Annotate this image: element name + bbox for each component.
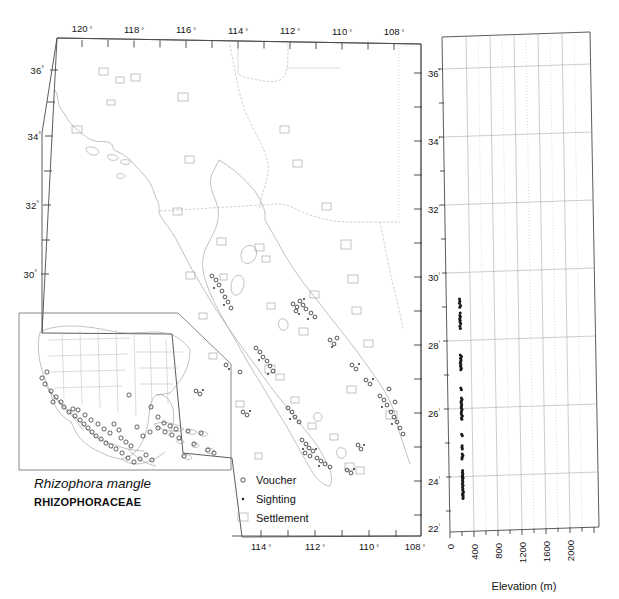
top-longitude-labels: 120° 118° 116° 114° 112° 110° 108° [72,23,405,37]
elevation-point [461,448,464,451]
svg-text:1200: 1200 [517,542,528,563]
inset-geography [38,326,214,466]
inset-map-north-america [18,312,233,472]
svg-text:30°: 30° [24,269,38,280]
inset-frame [19,313,231,470]
elevation-scatter-chart: 0 400 800 1200 1600 2000 Elevation (m) [428,18,619,598]
svg-text:2000: 2000 [565,540,576,561]
svg-text:0: 0 [445,544,456,549]
legend-settlement-label: Settlement [256,512,309,524]
elevation-data-points [458,297,465,500]
svg-text:114°: 114° [228,25,248,36]
svg-text:800: 800 [493,543,504,559]
svg-text:116°: 116° [176,24,196,35]
svg-text:112°: 112° [305,541,325,552]
species-name: Rhizophora mangle [34,476,151,491]
species-family: RHIZOPHORACEAE [34,496,141,508]
legend-sighting-label: Sighting [256,493,296,505]
elevation-axis-title: Elevation (m) [492,580,557,592]
svg-text:400: 400 [469,544,480,560]
figure-root: 120° 118° 116° 114° 112° 110° 108° 36° 3… [0,0,619,599]
svg-text:1600: 1600 [541,541,552,562]
svg-text:108°: 108° [405,541,426,552]
elevation-point [458,306,461,309]
elevation-point [459,327,462,330]
svg-text:114°: 114° [251,541,271,552]
left-latitude-ticks [41,70,58,274]
svg-text:110°: 110° [359,541,379,552]
elevation-latitude-ticks [438,69,451,511]
svg-text:112°: 112° [280,25,300,36]
svg-text:120°: 120° [72,23,93,34]
svg-text:36°: 36° [31,65,45,76]
elevation-point [460,388,463,391]
svg-text:32°: 32° [26,200,40,211]
elevation-point [461,434,464,437]
elevation-point [460,418,463,421]
elevation-frame [442,32,599,532]
elevation-point [459,322,462,325]
species-caption: Rhizophora mangle RHIZOPHORACEAE [30,472,250,522]
elevation-point [460,457,463,460]
legend-voucher-label: Voucher [256,474,297,486]
inset-occurrence-markers [40,370,216,464]
elevation-gridlines [443,32,598,531]
left-latitude-labels: 36° 34° 32° 30° [24,65,45,280]
svg-text:34°: 34° [28,131,42,142]
elevation-point [461,497,464,500]
svg-text:110°: 110° [332,26,352,37]
elevation-point [459,368,462,371]
bottom-longitude-labels: 114° 112° 110° 108° [251,541,426,552]
elevation-xaxis-labels: 0 400 800 1200 1600 2000 [445,540,576,563]
svg-text:108°: 108° [384,26,405,37]
svg-text:118°: 118° [124,24,144,35]
